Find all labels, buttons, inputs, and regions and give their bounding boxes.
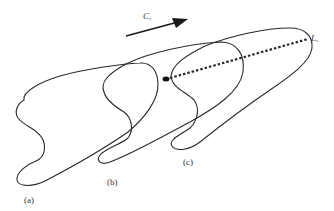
shape-b-label: (b)	[107, 178, 118, 187]
outline-shape-b	[98, 42, 243, 163]
velocity-label: Cs	[143, 12, 151, 21]
velocity-arrow-shaft	[126, 22, 178, 36]
length-label: Ls	[311, 34, 318, 43]
velocity-arrow-head	[172, 18, 188, 28]
shape-c-label: (c)	[183, 158, 193, 167]
diagram-canvas: Cs Ls (a) (b) (c)	[0, 0, 334, 211]
origin-dot	[163, 77, 170, 82]
outline-shape-c	[171, 28, 312, 149]
outline-shape-a	[16, 63, 158, 186]
shape-a-label: (a)	[24, 196, 34, 205]
diagram-drawing	[0, 0, 334, 211]
